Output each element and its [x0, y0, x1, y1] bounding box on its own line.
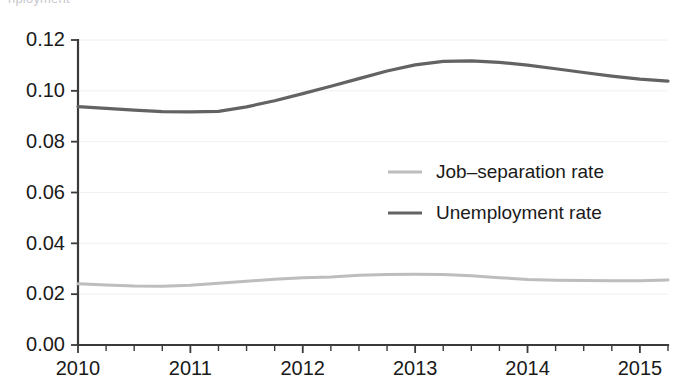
series-line [78, 61, 668, 112]
legend-label: Unemployment rate [436, 202, 602, 223]
x-tick-label: 2013 [393, 357, 438, 379]
y-tick-label: 0.10 [26, 79, 65, 101]
x-axis-ticks-group [78, 345, 668, 353]
x-axis-labels-group: 201020112012201320142015 [56, 357, 662, 379]
x-tick-label: 2011 [169, 357, 212, 379]
y-tick-label: 0.02 [26, 282, 65, 304]
x-tick-label: 2012 [281, 357, 326, 379]
y-tick-label: 0.06 [26, 181, 65, 203]
y-tick-label: 0.12 [26, 28, 65, 50]
x-tick-label: 2014 [505, 357, 550, 379]
chart-container: nployment 0.000.020.040.060.080.100.12 2… [0, 0, 685, 391]
x-tick-label: 2015 [618, 357, 663, 379]
y-tick-label: 0.08 [26, 130, 65, 152]
legend-label: Job–separation rate [436, 161, 604, 182]
y-axis-labels-group: 0.000.020.040.060.080.100.12 [26, 28, 65, 355]
x-tick-label: 2010 [56, 357, 101, 379]
series-line [78, 274, 668, 286]
line-chart-svg: 0.000.020.040.060.080.100.12 20102011201… [0, 0, 685, 391]
y-tick-label: 0.00 [26, 333, 65, 355]
y-tick-label: 0.04 [26, 232, 65, 254]
